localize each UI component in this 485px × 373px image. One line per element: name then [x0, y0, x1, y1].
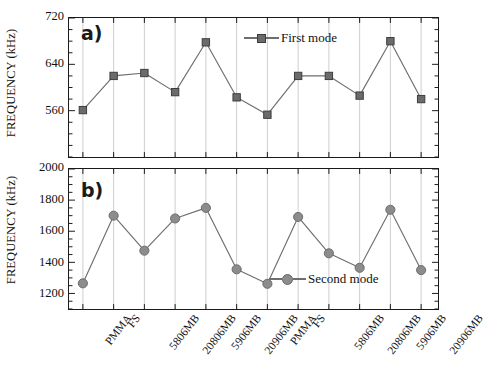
y-tick-label: 1600 — [24, 224, 64, 237]
panel-b-plot — [69, 169, 438, 309]
x-tick-label-3: 20806MB — [200, 312, 238, 356]
x-tick-label-8: 5806MB — [352, 312, 387, 352]
chart-panel-b: b) Second mode — [68, 168, 439, 310]
legend-label-second-mode: Second mode — [308, 271, 378, 287]
panel-b-tag: b) — [81, 179, 103, 201]
legend-line-icon — [266, 37, 279, 38]
legend-panel-a: First mode — [244, 30, 337, 46]
y-tick-label: 1200 — [24, 287, 64, 300]
legend-label-first-mode: First mode — [281, 30, 337, 46]
y-axis-label-panel-a: FREQUENCY (kHz) — [4, 8, 19, 158]
legend-square-marker-icon — [257, 34, 266, 43]
legend-circle-marker-icon — [282, 274, 293, 285]
x-tick-label-11: 20906MB — [447, 312, 485, 356]
legend-panel-b: Second mode — [269, 271, 378, 287]
chart-panel-a: a) First mode — [68, 17, 439, 158]
y-tick-label: 1800 — [24, 193, 64, 206]
panel-a-tag: a) — [81, 22, 103, 44]
y-axis-label-panel-b: FREQUENCY (kHz) — [4, 155, 19, 305]
y-tick-label: 1400 — [24, 256, 64, 269]
x-axis-tick-labels: PMMAFS5806MB20806MB5906MB20906MBPMMAFS58… — [0, 310, 456, 373]
x-tick-label-9: 20806MB — [385, 312, 423, 356]
legend-line-icon — [293, 278, 306, 279]
legend-line-icon — [269, 278, 282, 279]
y-tick-label: 2000 — [24, 161, 64, 174]
legend-line-icon — [244, 37, 257, 38]
x-tick-label-2: 5806MB — [167, 312, 202, 352]
